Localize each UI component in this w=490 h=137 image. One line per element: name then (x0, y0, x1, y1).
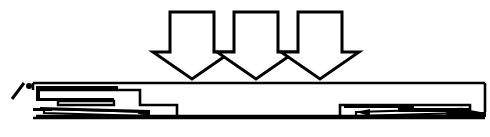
diagram-canvas (0, 0, 490, 137)
left-plate-upper (36, 86, 118, 89)
right-plate-middle (398, 108, 470, 112)
load-arrow-group (153, 12, 359, 79)
reference-dot-icon (26, 83, 32, 89)
left-plate-upper-edge (36, 90, 40, 101)
right-plate-upper (344, 105, 414, 108)
technical-diagram-figure (0, 0, 490, 137)
